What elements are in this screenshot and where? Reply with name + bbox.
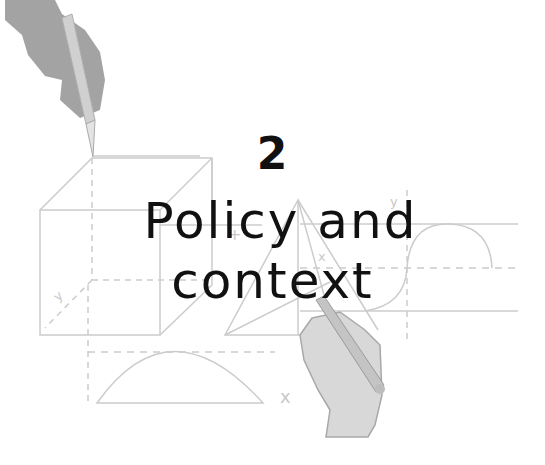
chapter-title-line-2: context bbox=[0, 256, 545, 306]
dome-drawing bbox=[97, 352, 263, 404]
chapter-title-line-1: Policy and bbox=[8, 196, 545, 246]
chapter-number: 2 bbox=[0, 128, 545, 179]
x-axis-label-bottom: x bbox=[280, 386, 291, 407]
hand-with-pencil-bottom bbox=[300, 296, 385, 437]
chapter-title-page: y y x x + 2 Policy and context bbox=[0, 0, 545, 465]
